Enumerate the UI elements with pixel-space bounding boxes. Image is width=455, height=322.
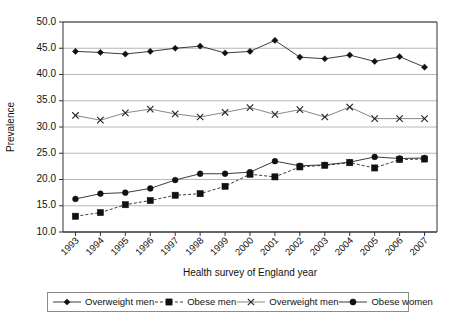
- data-point-square: [172, 192, 178, 198]
- data-point-square: [122, 202, 128, 208]
- y-tick-label: 15.0: [37, 199, 57, 210]
- data-point-circle: [350, 299, 356, 305]
- data-point-x: [322, 114, 328, 120]
- data-point-square: [272, 174, 278, 180]
- data-point-circle: [397, 156, 403, 162]
- x-tick-label: 2007: [407, 235, 430, 258]
- data-point-diamond: [347, 52, 353, 58]
- x-tick-label: 1999: [208, 235, 231, 258]
- data-point-circle: [172, 177, 178, 183]
- data-point-circle: [197, 171, 203, 177]
- data-point-circle: [272, 158, 278, 164]
- data-point-circle: [422, 155, 428, 161]
- data-point-circle: [147, 186, 153, 192]
- data-point-x: [72, 112, 78, 118]
- data-point-diamond: [397, 54, 403, 60]
- legend-item-3[interactable]: Obese women: [338, 296, 432, 308]
- legend-marker-circle-icon: [338, 296, 368, 308]
- x-tick-label: 1993: [58, 235, 81, 258]
- series-0: [72, 37, 427, 70]
- legend-label: Obese women: [371, 297, 432, 307]
- legend-marker-diamond-icon: [52, 296, 82, 308]
- data-point-x: [97, 117, 103, 123]
- series-1: [72, 156, 427, 219]
- data-point-circle: [222, 171, 228, 177]
- y-tick-label: 45.0: [37, 42, 57, 53]
- data-point-circle: [98, 191, 104, 197]
- y-tick-label: 50.0: [37, 16, 57, 27]
- data-point-diamond: [247, 48, 253, 54]
- y-tick-label: 30.0: [37, 121, 57, 132]
- chart-figure: 10.015.020.025.030.035.040.045.050.01993…: [0, 0, 455, 322]
- data-point-square: [147, 197, 153, 203]
- chart-legend: Overweight menObese menOverweight menObe…: [47, 292, 409, 312]
- data-point-x: [247, 104, 253, 110]
- legend-marker-x-icon: [236, 296, 266, 308]
- data-point-circle: [372, 154, 378, 160]
- x-tick-label: 2002: [283, 235, 306, 258]
- data-point-circle: [122, 190, 128, 196]
- legend-label: Overweight men: [85, 297, 154, 307]
- x-tick-label: 2003: [307, 235, 330, 258]
- series-3: [73, 154, 428, 202]
- prevalence-line-chart: 10.015.020.025.030.035.040.045.050.01993…: [0, 0, 455, 322]
- legend-item-2[interactable]: Overweight men: [236, 296, 338, 308]
- legend-label: Obese men: [187, 297, 236, 307]
- x-tick-label: 2005: [357, 235, 380, 258]
- data-point-square: [372, 165, 378, 171]
- x-tick-label: 1995: [108, 235, 131, 258]
- data-point-diamond: [172, 45, 178, 51]
- data-point-diamond: [72, 48, 78, 54]
- data-point-diamond: [122, 51, 128, 57]
- legend-label: Overweight men: [269, 297, 338, 307]
- data-point-square: [97, 209, 103, 215]
- y-axis-title: Prevalence: [5, 102, 16, 152]
- y-tick-label: 35.0: [37, 94, 57, 105]
- y-tick-label: 40.0: [37, 68, 57, 79]
- data-point-circle: [73, 196, 79, 202]
- data-point-x: [222, 109, 228, 115]
- data-point-circle: [297, 163, 303, 169]
- y-gridlines: 10.015.020.025.030.035.040.045.050.0: [37, 16, 437, 237]
- x-axis-title: Health survey of England year: [183, 267, 318, 278]
- data-point-circle: [247, 169, 253, 175]
- x-tick-label: 1996: [133, 235, 156, 258]
- data-point-circle: [347, 159, 353, 165]
- legend-item-1[interactable]: Obese men: [154, 296, 236, 308]
- data-point-diamond: [322, 56, 328, 62]
- data-point-square: [72, 213, 78, 219]
- data-point-square: [222, 183, 228, 189]
- legend-item-0[interactable]: Overweight men: [52, 296, 154, 308]
- data-point-x: [347, 104, 353, 110]
- data-point-diamond: [222, 50, 228, 56]
- y-tick-label: 10.0: [37, 226, 57, 237]
- y-tick-label: 25.0: [37, 147, 57, 158]
- data-point-square: [197, 191, 203, 197]
- data-point-diamond: [421, 64, 427, 70]
- data-point-diamond: [147, 48, 153, 54]
- data-point-square: [166, 299, 172, 305]
- x-tick-label: 1994: [83, 235, 106, 258]
- x-tick-label: 2000: [233, 235, 256, 258]
- x-tick-label: 1997: [158, 235, 181, 258]
- y-tick-label: 20.0: [37, 173, 57, 184]
- x-tick-labels: 1993199419951996199719981999200020012002…: [58, 232, 430, 257]
- data-point-diamond: [97, 49, 103, 55]
- series-line: [75, 107, 424, 120]
- x-tick-label: 1998: [183, 235, 206, 258]
- x-tick-label: 2001: [258, 235, 281, 258]
- x-tick-label: 2006: [382, 235, 405, 258]
- data-point-circle: [322, 162, 328, 168]
- data-point-diamond: [372, 58, 378, 64]
- legend-marker-square-icon: [154, 296, 184, 308]
- x-tick-label: 2004: [332, 235, 355, 258]
- data-point-x: [297, 106, 303, 112]
- data-point-x: [272, 111, 278, 117]
- data-point-diamond: [272, 37, 278, 43]
- series-2: [72, 104, 427, 124]
- data-point-diamond: [64, 299, 70, 305]
- data-point-diamond: [297, 54, 303, 60]
